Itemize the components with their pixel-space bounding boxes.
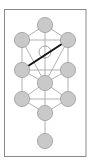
node-chesed	[60, 62, 75, 77]
node-netzach	[60, 91, 75, 106]
node-malkuth	[37, 133, 52, 148]
node-yesod	[37, 105, 52, 120]
tree-of-life-svg	[0, 0, 91, 164]
node-hod	[14, 91, 29, 106]
tree-of-life-diagram	[0, 0, 91, 164]
node-geburah	[14, 62, 29, 77]
node-binah	[14, 32, 29, 47]
node-kether	[37, 17, 52, 32]
node-tiphareth	[37, 75, 52, 90]
node-chokmah	[60, 32, 75, 47]
